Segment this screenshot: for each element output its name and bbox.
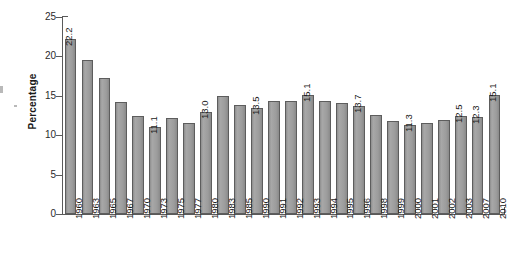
x-axis-tick-label: 1967 <box>125 198 135 219</box>
x-axis-tick-label: 1995 <box>345 198 355 219</box>
bar-value-label: 11.1 <box>149 116 159 134</box>
x-axis-tick-label: 1983 <box>227 198 237 219</box>
x-axis-tick-label: 1973 <box>159 198 169 219</box>
x-axis-tick-label: 1975 <box>176 198 186 219</box>
bar-value-label: 13.7 <box>353 95 363 114</box>
x-axis-tick-label: 1963 <box>91 198 101 219</box>
x-axis-tick-label: 1990 <box>261 198 271 219</box>
x-axis-tick-label: 1977 <box>193 198 203 219</box>
y-axis-tick-label: 5 <box>16 170 56 180</box>
bar-value-label: 15.1 <box>302 84 312 103</box>
bar-value-label: 13.0 <box>200 100 210 119</box>
bar-value-label: 12.3 <box>471 106 481 125</box>
bar-value-label: 12.5 <box>454 104 464 123</box>
x-axis-tick-label: 2010 <box>498 198 508 219</box>
x-axis-tick-label: 1994 <box>329 198 339 219</box>
x-axis-tick-label: 2007 <box>481 198 491 219</box>
x-axis-tick-label: 1965 <box>108 198 118 219</box>
bar-value-label: 11.3 <box>404 114 414 132</box>
x-axis-tick-label: 2000 <box>413 198 423 219</box>
x-axis-tick-label: 2001 <box>430 198 440 219</box>
x-axis-tick-label: 1960 <box>74 198 84 219</box>
x-axis-tick-label: 2002 <box>447 198 457 219</box>
y-axis-tick-label: 25 <box>16 12 56 22</box>
y-axis-tick-label-wrap: 0 <box>0 209 56 219</box>
x-axis-tick-label: 1999 <box>396 198 406 219</box>
x-axis-tick-label: 1996 <box>362 198 372 219</box>
plot-area <box>62 17 503 214</box>
bar <box>217 96 229 214</box>
y-axis-tick <box>56 214 62 215</box>
x-axis-tick-label: 1992 <box>295 198 305 219</box>
y-axis-tick-label-wrap: 25 <box>0 12 56 22</box>
bar-value-label: 22.2 <box>64 28 74 47</box>
x-axis-tick-label: 1970 <box>142 198 152 219</box>
x-axis-tick-label: 1985 <box>244 198 254 219</box>
bar <box>489 95 501 214</box>
bar-value-label: 15.1 <box>488 84 498 103</box>
bar <box>82 60 94 214</box>
x-axis-tick-label: 1993 <box>312 198 322 219</box>
y-axis-title: Percentage <box>27 42 38 162</box>
bar <box>99 78 111 214</box>
chart-figure: 0510152025 Percentage 22.211.113.013.515… <box>0 0 515 258</box>
x-axis-tick-label: 1998 <box>379 198 389 219</box>
y-axis-tick-label-wrap: 5 <box>0 170 56 180</box>
x-axis-tick-label: 2003 <box>464 198 474 219</box>
x-axis-tick-label: 1991 <box>278 198 288 219</box>
x-axis-tick-label: 1980 <box>210 198 220 219</box>
scan-artifact-mark <box>14 105 17 107</box>
y-axis-tick-label: 0 <box>16 209 56 219</box>
bar <box>65 39 77 214</box>
bar-value-label: 13.5 <box>251 96 261 115</box>
bar <box>302 95 314 214</box>
